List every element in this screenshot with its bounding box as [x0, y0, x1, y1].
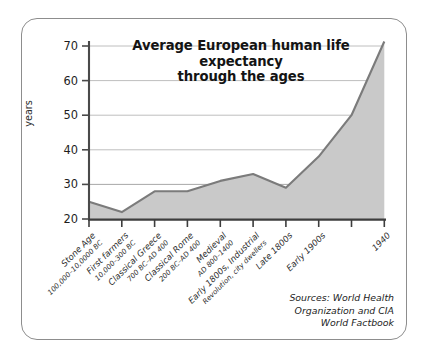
sources-note: Sources: World Health Organization and C… — [224, 292, 394, 330]
sources-line-2: Organization and CIA — [224, 305, 394, 318]
sources-line-1: Sources: World Health — [224, 292, 394, 305]
sources-line-3: World Factbook — [224, 317, 394, 330]
chart-page: 70 60 50 40 30 20 years Average European… — [0, 0, 428, 357]
plot-area: 70 60 50 40 30 20 years Average European… — [0, 0, 428, 357]
x-tick-label-1940: 1940 — [386, 216, 408, 238]
x-label-name-8: 1940 — [370, 230, 393, 253]
